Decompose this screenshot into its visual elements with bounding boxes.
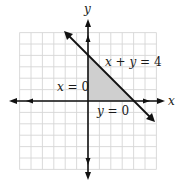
coordinate-graph: y x x + y = 4 x = 0 y = 0: [0, 0, 178, 182]
y-equals-zero-label: y = 0: [96, 104, 129, 118]
x-axis-label: x: [168, 94, 175, 108]
line-equation-label: x + y = 4: [105, 55, 162, 69]
x-axis-right-arrow-icon: [157, 98, 165, 104]
y-axis-top-arrow-icon: [85, 19, 91, 27]
x-axis-right-mid-arrow-icon: [143, 99, 150, 104]
x-axis-left-arrow-icon: [9, 98, 17, 104]
x-equals-zero-label: x = 0: [57, 80, 89, 94]
y-axis-bottom-mid-arrow-icon: [86, 158, 91, 165]
x-axis-left-mid-arrow-icon: [26, 99, 33, 104]
y-axis-label: y: [83, 2, 91, 16]
y-axis-top-mid-arrow-icon: [86, 35, 91, 42]
y-axis-bottom-arrow-icon: [85, 172, 91, 180]
